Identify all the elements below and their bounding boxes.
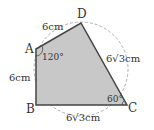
side-bc-label: 6√3cm <box>66 112 101 123</box>
quadrilateral-diagram: A B C D 6cm 6cm 6√3cm 6√3cm 120° 60° <box>0 0 154 130</box>
vertex-a-label: A <box>24 42 34 56</box>
angle-c-label: 60° <box>107 94 123 104</box>
angle-a-label: 120° <box>42 52 64 62</box>
side-ab-label: 6cm <box>9 72 31 83</box>
vertex-d-label: D <box>77 7 87 21</box>
vertex-c-label: C <box>128 101 137 115</box>
side-ad-label: 6cm <box>42 21 64 32</box>
side-cd-label: 6√3cm <box>106 53 141 64</box>
vertex-b-label: B <box>26 102 35 116</box>
